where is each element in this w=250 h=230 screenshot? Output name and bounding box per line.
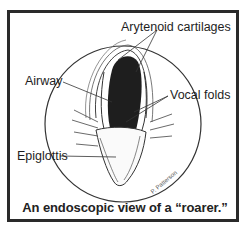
label-arytenoid-cartilages: Arytenoid cartilages bbox=[121, 21, 231, 34]
airway-opening bbox=[108, 56, 142, 139]
larynx-illustration bbox=[0, 0, 250, 230]
label-epiglottis: Epiglottis bbox=[17, 150, 68, 163]
label-airway: Airway bbox=[25, 75, 63, 88]
label-vocal-folds: Vocal folds bbox=[170, 89, 230, 102]
figure-caption: An endoscopic view of a “roarer.” bbox=[0, 200, 250, 215]
